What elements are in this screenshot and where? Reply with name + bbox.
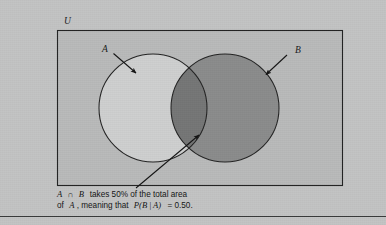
caption-intersection-symbol: ∩ [68, 190, 74, 199]
universe-label: U [64, 16, 72, 26]
caption-line-2: of A , meaning that P(B | A) = 0.50. [57, 200, 193, 210]
caption-a-1: A [56, 189, 63, 199]
venn-diagram-figure: U A B A ∩ B takes 50% of the total area … [0, 0, 386, 225]
set-b-label: B [295, 45, 301, 55]
caption-line2-of: of [57, 201, 65, 210]
caption-line2-mid: , meaning that [77, 201, 130, 210]
caption-b-1: B [79, 189, 85, 199]
caption-probability-expression: P(B | A) [133, 200, 161, 210]
caption-line1-rest: takes 50% of the total area [90, 190, 188, 199]
venn-diagram-canvas: U A B A ∩ B takes 50% of the total area … [0, 0, 386, 225]
caption-line2-end: = 0.50. [167, 201, 192, 210]
set-a-label: A [101, 44, 108, 54]
caption-a-2: A [68, 200, 75, 210]
